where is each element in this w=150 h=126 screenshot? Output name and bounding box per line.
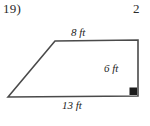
- bottom-side-length-label: 13 ft: [62, 99, 82, 111]
- trapezoid-outline: [8, 40, 138, 97]
- top-side-length-label: 8 ft: [71, 26, 85, 38]
- worksheet-problem-figure: 19) 2 8 ft 6 ft 13 ft: [0, 0, 150, 126]
- right-angle-marker-icon: [130, 88, 138, 96]
- right-side-length-label: 6 ft: [104, 62, 118, 74]
